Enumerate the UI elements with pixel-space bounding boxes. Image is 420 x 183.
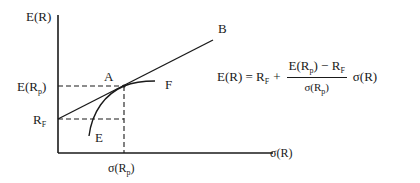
y-tick-risk-free-rate: RF xyxy=(33,113,46,129)
formula-lhs: E(R) = RF xyxy=(217,69,269,86)
formula-plus: + xyxy=(273,69,280,85)
point-label-f: F xyxy=(165,78,172,91)
point-label-e: E xyxy=(95,131,103,144)
y-tick-expected-return-portfolio: E(Rp) xyxy=(17,80,46,96)
formula-numerator: E(Rp) − RF xyxy=(287,58,347,78)
x-tick-sigma-portfolio: σ(Rp) xyxy=(108,162,134,177)
formula-denominator: σ(Rp) xyxy=(304,78,329,96)
formula-rhs: σ(R) xyxy=(353,69,377,85)
efficient-frontier-curve xyxy=(89,81,155,136)
y-axis-label: E(R) xyxy=(26,10,51,23)
capital-market-line xyxy=(58,40,213,119)
point-label-b: B xyxy=(218,22,227,35)
cml-formula: E(R) = RF + E(Rp) − RF σ(Rp) σ(R) xyxy=(217,58,377,96)
x-axis-label: σ(R) xyxy=(270,147,292,159)
formula-fraction: E(Rp) − RF σ(Rp) xyxy=(287,58,347,96)
point-label-a: A xyxy=(104,70,113,83)
tangency-point-a xyxy=(122,84,125,87)
